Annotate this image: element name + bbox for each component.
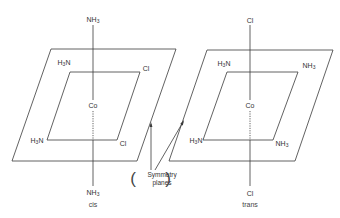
isomer-diagram: NH3 H3N Cl Co H3N Cl NH3 cis Cl H3N NH3 …: [0, 0, 340, 218]
cis-ligand-bottom-right: Cl: [120, 140, 127, 147]
trans-ligand-bottom-left: H3N: [190, 137, 203, 145]
cis-center-atom: Co: [89, 102, 98, 109]
cis-ligand-bottom-left: H3N: [31, 137, 44, 145]
symmetry-pointer-right: [155, 122, 183, 170]
close-parenthesis: ): [165, 169, 171, 189]
symmetry-label-line1: Symmetry: [147, 171, 176, 179]
arrowhead-right-icon: [180, 120, 184, 126]
symmetry-planes-label: Symmetry planes: [147, 171, 176, 187]
cis-caption: cis: [89, 201, 98, 208]
trans-bottom-ligand: Cl: [247, 190, 254, 197]
symmetry-label-line2: planes: [147, 179, 176, 187]
trans-ligand-bottom-right: NH3: [276, 140, 289, 148]
cis-bottom-ligand: NH3: [87, 189, 100, 197]
open-parenthesis: (: [130, 169, 136, 189]
trans-center-atom: Co: [246, 102, 255, 109]
cis-top-ligand: NH3: [87, 16, 100, 24]
trans-top-ligand: Cl: [247, 17, 254, 24]
trans-caption: trans: [242, 201, 258, 208]
cis-ligand-top-right: Cl: [143, 65, 150, 72]
cis-ligand-top-left: H3N: [58, 59, 71, 67]
trans-ligand-top-left: H3N: [218, 60, 231, 68]
trans-ligand-top-right: NH3: [303, 62, 316, 70]
